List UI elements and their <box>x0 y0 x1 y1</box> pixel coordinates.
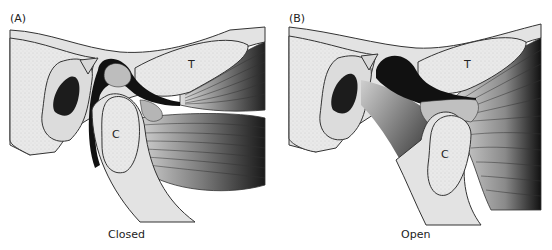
panel-caption: Open <box>401 228 430 241</box>
temporal-bone-label: T <box>188 58 195 71</box>
panel-closed: (A) <box>0 0 276 250</box>
panel-caption: Closed <box>108 228 145 241</box>
condyle-label: C <box>441 148 449 161</box>
condyle-label: C <box>112 128 120 141</box>
temporal-bone-label: T <box>464 58 471 71</box>
panel-open: (B) <box>276 0 552 250</box>
tmj-closed-illustration <box>0 0 276 250</box>
tmj-open-illustration <box>276 0 552 250</box>
